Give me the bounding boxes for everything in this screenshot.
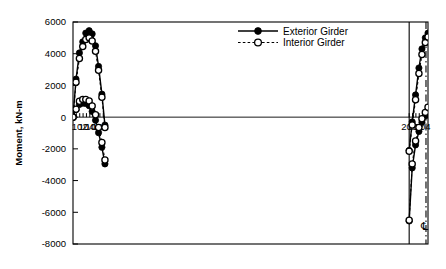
data-point-interior xyxy=(80,43,86,49)
data-point-interior xyxy=(95,67,101,73)
data-point-interior xyxy=(419,51,425,57)
data-point-interior xyxy=(409,122,415,128)
data-point-interior xyxy=(412,138,418,144)
legend-marker-open-circle xyxy=(255,39,262,46)
data-point-interior xyxy=(425,104,431,110)
data-point-interior xyxy=(419,116,425,122)
y-tick-label-6000: 6000 xyxy=(45,16,66,27)
y-tick-label--2000: -2000 xyxy=(42,143,66,154)
y-tick-label--8000: -8000 xyxy=(42,238,66,249)
y-tick-label--6000: -6000 xyxy=(42,207,66,218)
data-point-interior xyxy=(416,70,422,76)
data-point-interior xyxy=(70,114,76,120)
data-point-interior xyxy=(412,97,418,103)
y-tick-label-4000: 4000 xyxy=(45,48,66,59)
legend-label-0: Exterior Girder xyxy=(283,26,349,37)
y-tick-label-0: 0 xyxy=(61,112,66,123)
data-point-interior xyxy=(99,139,105,145)
data-point-interior xyxy=(406,217,412,223)
data-point-interior xyxy=(409,161,415,167)
data-point-interior xyxy=(406,148,412,154)
data-point-interior xyxy=(425,34,431,40)
data-point-interior xyxy=(92,112,98,118)
data-point-interior xyxy=(416,124,422,130)
y-axis-title: Moment, kN-m xyxy=(13,100,24,165)
data-point-interior xyxy=(76,55,82,61)
moment-envelope-chart: 6000400020000-2000-4000-6000-8000Moment,… xyxy=(0,0,446,269)
data-point-interior xyxy=(99,94,105,100)
data-point-interior xyxy=(89,103,95,109)
y-tick-label-2000: 2000 xyxy=(45,80,66,91)
data-point-interior xyxy=(102,157,108,163)
centerline-symbol: ℄ xyxy=(420,220,428,232)
chart-canvas: 6000400020000-2000-4000-6000-8000Moment,… xyxy=(0,0,446,269)
y-tick-label--4000: -4000 xyxy=(42,175,66,186)
legend-label-1: Interior Girder xyxy=(283,37,345,48)
legend-marker-filled-circle xyxy=(255,28,262,35)
data-point-interior xyxy=(95,124,101,130)
data-point-interior xyxy=(89,38,95,44)
plot-frame xyxy=(73,22,428,244)
data-point-interior xyxy=(73,79,79,85)
data-point-interior xyxy=(92,48,98,54)
data-point-interior xyxy=(102,124,108,130)
